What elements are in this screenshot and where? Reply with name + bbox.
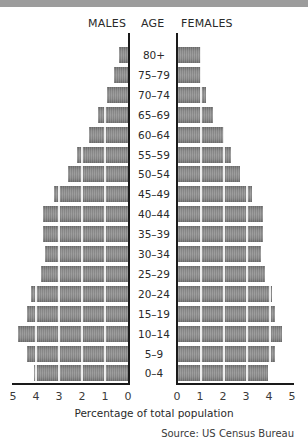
male-bar: [27, 306, 128, 322]
grid-line: [58, 33, 60, 383]
female-bar: [178, 186, 252, 202]
female-tick-label: 5: [285, 390, 299, 403]
male-baseline: [12, 383, 130, 385]
age-group-label: 55–59: [131, 147, 177, 163]
female-bar: [178, 47, 201, 63]
grid-line: [269, 33, 271, 383]
age-group-label: 60–64: [131, 127, 177, 143]
female-bar: [178, 346, 275, 362]
top-strip: [0, 0, 308, 7]
female-bar: [178, 206, 263, 222]
female-tick-label: 1: [193, 390, 207, 403]
male-bar: [43, 206, 128, 222]
age-group-label: 25–29: [131, 266, 177, 282]
male-tick-label: 1: [98, 390, 112, 403]
age-group-label: 15–19: [131, 306, 177, 322]
female-tick-label: 3: [239, 390, 253, 403]
female-tick-label: 0: [170, 390, 184, 403]
age-group-label: 45–49: [131, 186, 177, 202]
female-bar: [178, 266, 265, 282]
grid-line: [200, 33, 202, 383]
male-bar: [68, 166, 128, 182]
source-note: Source: US Census Bureau: [161, 428, 294, 439]
female-axis-line: [176, 33, 178, 385]
grid-line: [104, 33, 106, 383]
male-tick-label: 0: [121, 390, 135, 403]
age-group-label: 50–54: [131, 166, 177, 182]
age-group-label: 20–24: [131, 286, 177, 302]
grid-line: [246, 33, 248, 383]
grid-line: [81, 33, 83, 383]
male-bar: [114, 67, 128, 83]
male-axis-line: [128, 33, 130, 385]
female-bar: [178, 306, 275, 322]
females-header: FEMALES: [181, 17, 233, 30]
male-bar: [54, 186, 128, 202]
age-group-label: 75–79: [131, 67, 177, 83]
male-tick-label: 2: [75, 390, 89, 403]
male-bar: [98, 107, 128, 123]
age-group-label: 30–34: [131, 246, 177, 262]
female-bar: [178, 246, 261, 262]
male-tick-label: 5: [6, 390, 20, 403]
age-group-label: 5–9: [131, 346, 177, 362]
grid-line: [35, 33, 37, 383]
age-group-label: 0–4: [131, 365, 177, 381]
male-bar: [41, 266, 128, 282]
male-bar: [31, 286, 128, 302]
grid-line: [223, 33, 225, 383]
female-bar: [178, 166, 240, 182]
age-group-label: 35–39: [131, 226, 177, 242]
age-group-label: 70–74: [131, 87, 177, 103]
female-bar: [178, 107, 213, 123]
age-group-label: 80+: [131, 47, 177, 63]
age-group-label: 40–44: [131, 206, 177, 222]
female-tick-label: 2: [216, 390, 230, 403]
male-bar: [27, 346, 128, 362]
female-bar: [178, 326, 282, 342]
age-header: AGE: [141, 17, 164, 30]
age-group-label: 10–14: [131, 326, 177, 342]
male-bar: [119, 47, 128, 63]
male-bar: [107, 87, 128, 103]
female-tick-label: 4: [262, 390, 276, 403]
male-tick-label: 4: [29, 390, 43, 403]
age-group-label: 65–69: [131, 107, 177, 123]
males-header: MALES: [88, 17, 126, 30]
female-bar: [178, 286, 272, 302]
female-bar: [178, 67, 201, 83]
x-axis-label: Percentage of total population: [0, 407, 308, 419]
female-baseline: [176, 383, 294, 385]
female-bar: [178, 226, 263, 242]
male-bar: [89, 127, 128, 143]
male-tick-label: 3: [52, 390, 66, 403]
male-bar: [77, 147, 128, 163]
male-bar: [43, 226, 128, 242]
